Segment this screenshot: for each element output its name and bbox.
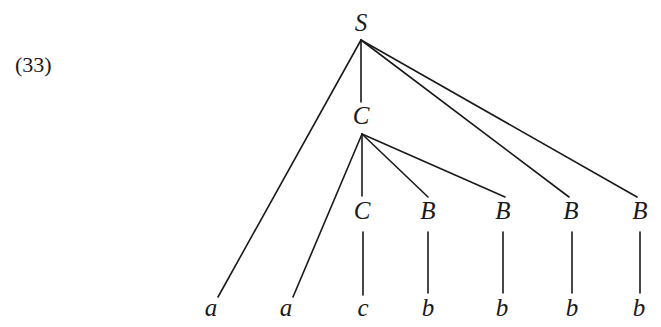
tree-node-c1: c [357,294,368,321]
tree-node-B4: B [632,197,647,224]
tree-edge-S-a1 [218,40,361,297]
tree-node-b3: b [566,294,579,321]
tree-node-B1: B [420,197,435,224]
tree-node-C2: C [354,197,371,224]
tree-node-b1: b [422,294,435,321]
tree-node-b4: b [633,294,646,321]
tree-node-S: S [355,9,368,36]
tree-node-C1: C [353,102,370,129]
tree-node-B3: B [563,197,578,224]
tree-edge-C1-a2 [293,134,362,297]
tree-node-B2: B [495,197,510,224]
tree-node-a2: a [280,294,293,321]
tree-edge-S-B3 [361,40,569,197]
parse-tree-diagram: (33) SCCBBBBaacbbbb [0,0,661,327]
tree-node-b2: b [496,294,509,321]
tree-edge-C1-B1 [362,134,428,197]
tree-edges [218,40,640,297]
tree-node-a1: a [205,294,218,321]
tree-edge-C1-B2 [362,134,505,197]
example-number: (33) [15,52,52,77]
